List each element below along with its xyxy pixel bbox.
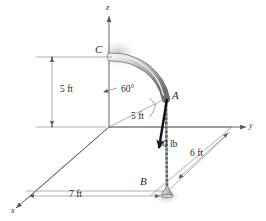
- angle-arc-60: [150, 98, 156, 117]
- dimension-depth-6ft: [179, 133, 228, 178]
- point-label-b: B: [140, 176, 147, 187]
- axis-label-y: y: [249, 122, 253, 130]
- load-label-60lb: 60 lb: [158, 140, 177, 150]
- statics-figure: z y x C A B 5 ft 60° 5 ft 60 lb 6 ft 7 f…: [0, 0, 266, 221]
- ground-plane-lines: [26, 127, 232, 200]
- axis-label-z: z: [106, 4, 109, 12]
- angle-leader-line: [104, 88, 117, 92]
- dimension-label-depth: 6 ft: [190, 149, 203, 159]
- axis-label-x: x: [11, 207, 15, 215]
- point-label-a: A: [172, 90, 179, 101]
- dimension-label-radius: 5 ft: [131, 112, 144, 122]
- dimension-label-height: 5 ft: [60, 85, 73, 95]
- dimension-label-span: 7 ft: [69, 190, 82, 200]
- dimension-height-5ft: [36, 57, 112, 127]
- angle-label-60deg: 60°: [121, 85, 134, 95]
- point-label-c: C: [95, 44, 102, 55]
